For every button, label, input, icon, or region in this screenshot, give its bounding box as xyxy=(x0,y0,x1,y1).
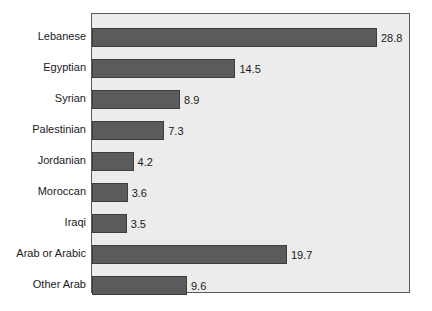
category-axis: LebaneseEgyptianSyrianPalestinianJordani… xyxy=(0,13,86,293)
bar-moroccan xyxy=(92,183,128,202)
bar-row: 28.8 xyxy=(92,28,411,47)
bar-syrian xyxy=(92,90,180,109)
category-label-other-arab: Other Arab xyxy=(0,275,86,294)
bar-row: 3.6 xyxy=(92,183,411,202)
bar-other-arab xyxy=(92,276,187,295)
bar-value-label: 8.9 xyxy=(184,94,199,105)
bar-row: 7.3 xyxy=(92,121,411,140)
category-label-syrian: Syrian xyxy=(0,89,86,108)
bar-iraqi xyxy=(92,214,127,233)
bar-row: 14.5 xyxy=(92,59,411,78)
category-label-jordanian: Jordanian xyxy=(0,151,86,170)
bar-value-label: 7.3 xyxy=(168,125,183,136)
bar-value-label: 3.6 xyxy=(132,187,147,198)
bar-value-label: 19.7 xyxy=(291,249,312,260)
bar-row: 3.5 xyxy=(92,214,411,233)
category-label-lebanese: Lebanese xyxy=(0,27,86,46)
bar-jordanian xyxy=(92,152,134,171)
category-label-egyptian: Egyptian xyxy=(0,58,86,77)
bar-egyptian xyxy=(92,59,235,78)
bar-value-label: 4.2 xyxy=(138,156,153,167)
bar-value-label: 9.6 xyxy=(191,280,206,291)
bar-value-label: 3.5 xyxy=(131,218,146,229)
bar-row: 8.9 xyxy=(92,90,411,109)
category-label-arab-or-arabic: Arab or Arabic xyxy=(0,244,86,263)
bar-row: 9.6 xyxy=(92,276,411,295)
category-label-iraqi: Iraqi xyxy=(0,213,86,232)
bar-palestinian xyxy=(92,121,164,140)
bar-value-label: 14.5 xyxy=(239,63,260,74)
plot-area: 28.814.58.97.34.23.63.519.79.6 xyxy=(91,13,410,293)
bar-chart-figure: LebaneseEgyptianSyrianPalestinianJordani… xyxy=(0,0,432,311)
category-label-palestinian: Palestinian xyxy=(0,120,86,139)
bar-lebanese xyxy=(92,28,377,47)
bar-row: 4.2 xyxy=(92,152,411,171)
bar-row: 19.7 xyxy=(92,245,411,264)
bar-arab-or-arabic xyxy=(92,245,287,264)
category-label-moroccan: Moroccan xyxy=(0,182,86,201)
bar-value-label: 28.8 xyxy=(381,32,402,43)
